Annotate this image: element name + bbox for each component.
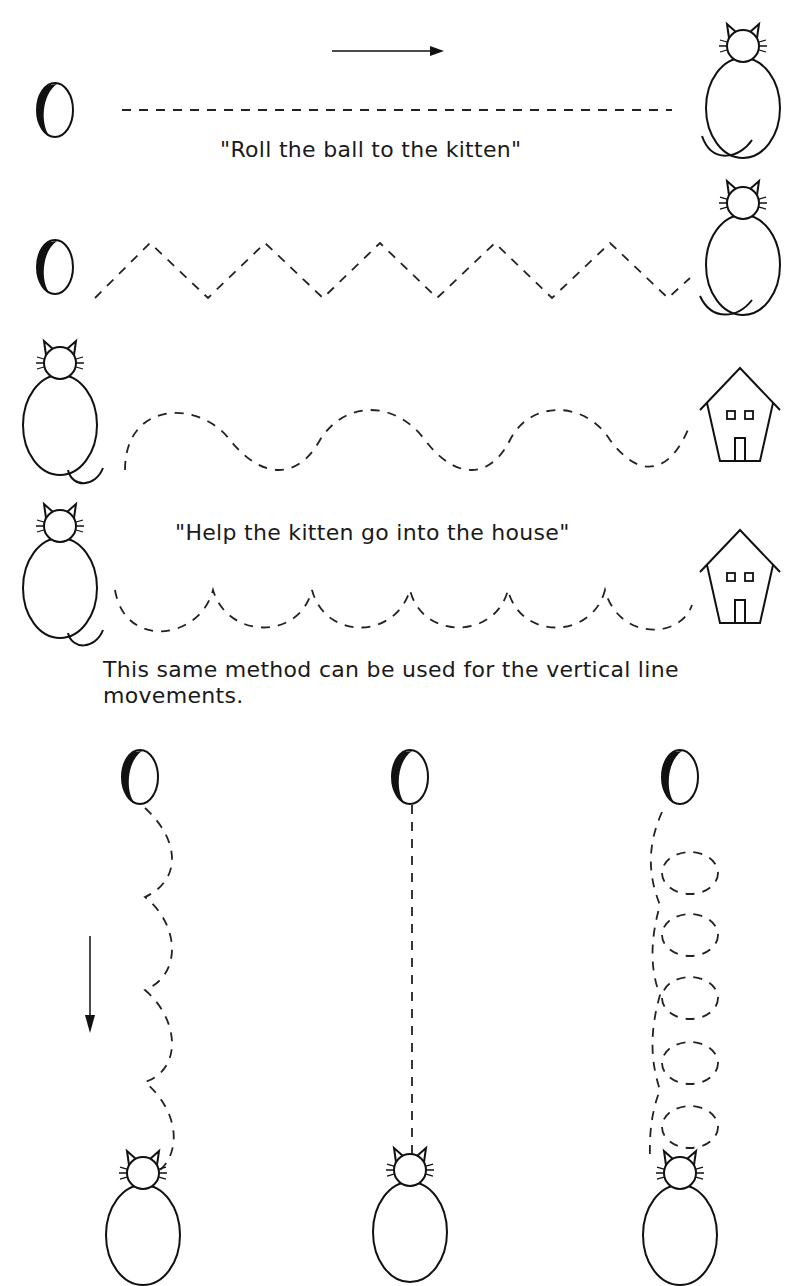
arrow-right-icon xyxy=(332,46,444,56)
ball-icon xyxy=(662,750,698,804)
wave-trace-path[interactable] xyxy=(125,410,690,470)
zigzag-trace-path[interactable] xyxy=(95,243,690,298)
arrow-down-icon xyxy=(85,936,95,1033)
ball-icon xyxy=(122,750,158,804)
ball-icon xyxy=(37,240,73,294)
caption-roll-ball: "Roll the ball to the kitten" xyxy=(220,137,521,162)
scallop-trace-path[interactable] xyxy=(115,590,692,631)
kitten-icon xyxy=(106,1151,180,1285)
kitten-icon xyxy=(706,181,780,315)
worksheet-drawing xyxy=(0,0,787,1286)
ball-icon xyxy=(37,83,73,137)
kitten-icon xyxy=(643,1151,717,1285)
kitten-icon xyxy=(706,24,780,158)
vertical-method-note: This same method can be used for the ver… xyxy=(103,657,743,709)
vertical-scallop-trace-path[interactable] xyxy=(145,808,174,1170)
ball-icon xyxy=(392,750,428,804)
kitten-icon xyxy=(23,341,97,475)
caption-help-kitten: "Help the kitten go into the house" xyxy=(175,520,570,545)
kitten-icon xyxy=(23,504,97,638)
vertical-loop-trace-path[interactable] xyxy=(650,812,718,1160)
kitten-icon xyxy=(373,1148,447,1282)
house-icon xyxy=(700,530,780,623)
house-icon xyxy=(700,368,780,461)
